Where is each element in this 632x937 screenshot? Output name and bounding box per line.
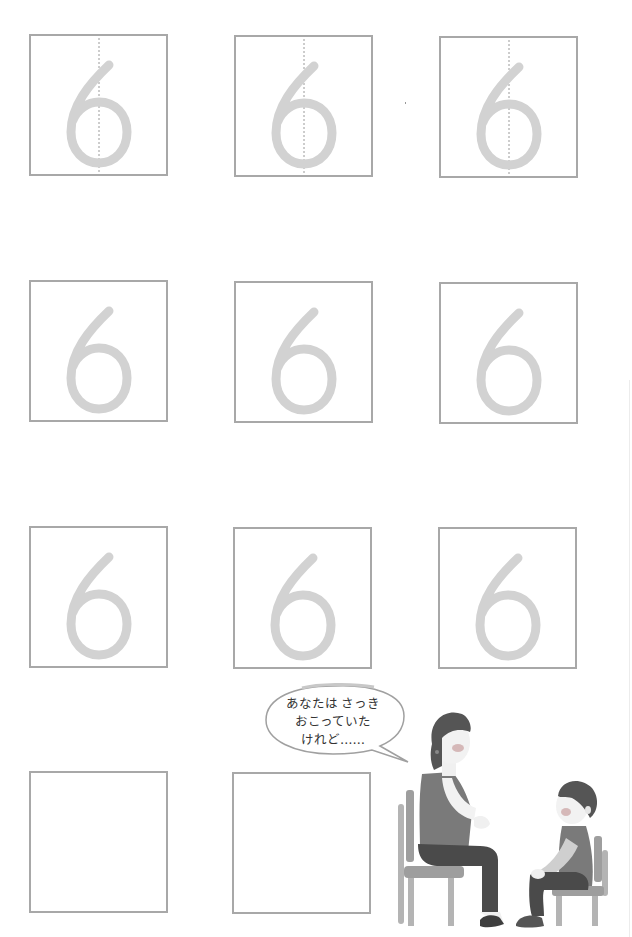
speech-line-1: あなたは さっき <box>262 695 404 713</box>
woman-and-child-sitting-icon <box>390 700 632 937</box>
digit-six-trace-icon <box>236 283 371 421</box>
practice-box-r4-c2[interactable] <box>232 772 371 914</box>
trace-box-r3-c3[interactable] <box>438 527 577 669</box>
speech-line-3: けれど…… <box>262 731 404 749</box>
digit-six-trace-icon <box>441 284 576 422</box>
trace-box-r2-c3[interactable] <box>439 282 578 424</box>
woman-figure <box>418 712 504 927</box>
digit-six-trace-icon <box>235 529 370 667</box>
digit-six-trace-icon <box>236 37 371 175</box>
digit-six-trace-icon <box>31 36 166 174</box>
trace-box-r2-c1[interactable] <box>29 280 168 422</box>
speech-bubble-text: あなたは さっき おこっていた けれど…… <box>262 695 404 749</box>
trace-box-r1-c3[interactable] <box>439 36 578 178</box>
trace-box-r3-c2[interactable] <box>233 527 372 669</box>
scan-speck <box>405 102 406 104</box>
practice-box-r4-c1[interactable] <box>29 771 168 913</box>
speech-line-2: おこっていた <box>262 713 404 731</box>
digit-six-trace-icon <box>441 38 576 176</box>
trace-box-r2-c2[interactable] <box>234 281 373 423</box>
digit-six-trace-icon <box>31 528 166 666</box>
trace-box-r1-c1[interactable] <box>29 34 168 176</box>
trace-box-r3-c1[interactable] <box>29 526 168 668</box>
digit-six-trace-icon <box>440 529 575 667</box>
trace-box-r1-c2[interactable] <box>234 35 373 177</box>
digit-six-trace-icon <box>31 282 166 420</box>
illustration-woman-and-child <box>390 700 632 937</box>
